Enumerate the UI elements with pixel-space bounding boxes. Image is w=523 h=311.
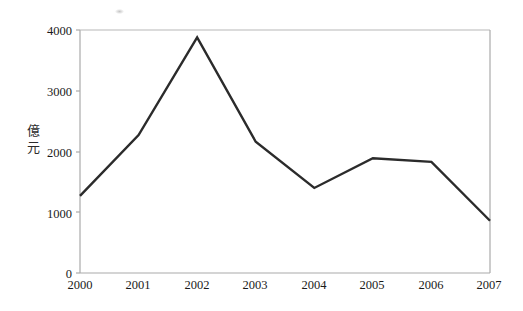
data-series-line <box>80 37 490 220</box>
line-chart: 億 元 4000 3000 2000 1000 0 2000 2001 2002… <box>0 0 523 311</box>
axis-frame <box>80 30 490 273</box>
plot-area <box>0 0 523 311</box>
